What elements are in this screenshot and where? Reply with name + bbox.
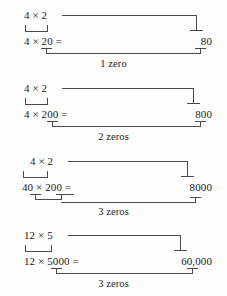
zero-bracket-span-3 [61, 202, 196, 203]
zero-bracket-left-cap-2 [47, 121, 58, 122]
zero-bracket-step-3 [35, 199, 62, 200]
caption-3: 3 zeros [0, 206, 227, 217]
top-expression-3: 4 × 2 [30, 156, 53, 167]
zero-bracket-span-2 [52, 126, 201, 127]
example-block-3: 4 × 2 40 × 200 = 8000 3 zeros [0, 146, 227, 219]
zero-bracket-span-4 [56, 273, 193, 274]
example-block-4: 12 × 5 12 × 5000 = 60,000 3 zeros [0, 220, 227, 296]
zero-bracket-right-cap-3 [190, 197, 201, 198]
zero-bracket-left-cap-4 [51, 268, 62, 269]
top-expression-2: 4 × 2 [24, 83, 47, 94]
zero-bracket-left-cap-1 [41, 48, 52, 49]
top-expression-4: 12 × 5 [24, 230, 53, 241]
bracket-right-tick-3 [47, 171, 48, 177]
zero-bracket-left-cap-3 [30, 194, 41, 195]
carry-line-2 [62, 88, 194, 89]
bottom-expression-4: 12 × 5000 = [24, 256, 79, 267]
bottom-expression-1: 4 × 20 = [24, 36, 62, 47]
zero-bracket-right-cap-2 [195, 121, 206, 122]
caption-1: 1 zero [0, 58, 227, 69]
bracket-right-tick-2 [47, 98, 48, 104]
figure-canvas: 4 × 2 4 × 20 = 80 1 zero 4 × 2 4 × 200 =… [0, 0, 227, 296]
carry-drop-2 [193, 88, 194, 103]
carry-drop-1 [196, 15, 197, 30]
caption-4: 3 zeros [0, 278, 227, 289]
example-block-2: 4 × 2 4 × 200 = 800 2 zeros [0, 73, 227, 146]
bottom-expression-3: 40 × 200 = [22, 182, 71, 193]
carry-drop-tick-4 [174, 250, 187, 251]
top-expression-1: 4 × 2 [24, 10, 47, 21]
bracket-span-4 [25, 251, 52, 252]
zero-bracket-mid-cap-3 [56, 194, 74, 195]
result-3: 8000 [190, 182, 212, 193]
carry-line-1 [62, 15, 197, 16]
bottom-expression-2: 4 × 200 = [24, 109, 68, 120]
bracket-right-tick-4 [51, 245, 52, 251]
result-1: 80 [201, 36, 212, 47]
zero-bracket-right-cap-1 [195, 48, 206, 49]
bracket-span-2 [25, 104, 48, 105]
carry-drop-4 [180, 235, 181, 250]
carry-drop-tick-2 [187, 103, 200, 104]
result-4: 60,000 [181, 256, 212, 267]
carry-drop-3 [187, 161, 188, 176]
result-2: 800 [195, 109, 212, 120]
zero-bracket-right-cap-4 [187, 268, 198, 269]
carry-drop-tick-1 [190, 30, 203, 31]
zero-bracket-span-1 [46, 53, 201, 54]
caption-2: 2 zeros [0, 131, 227, 142]
bracket-span-1 [25, 31, 48, 32]
bracket-span-3 [23, 177, 48, 178]
carry-drop-tick-3 [181, 176, 194, 177]
example-block-1: 4 × 2 4 × 20 = 80 1 zero [0, 0, 227, 72]
carry-line-3 [68, 161, 188, 162]
bracket-right-tick-1 [47, 25, 48, 31]
carry-line-4 [68, 235, 181, 236]
